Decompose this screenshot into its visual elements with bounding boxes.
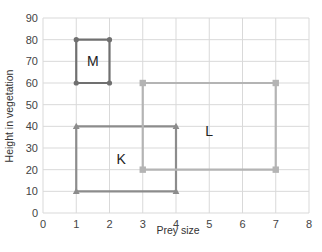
- x-tick-label: 7: [273, 218, 279, 230]
- series-line: [76, 126, 176, 191]
- y-axis-ticks: 0102030405060708090: [26, 12, 38, 219]
- region-label-k: K: [116, 151, 126, 167]
- circle-marker: [74, 80, 79, 85]
- square-marker: [273, 166, 279, 172]
- y-tick-label: 40: [26, 120, 38, 132]
- square-marker: [140, 80, 146, 86]
- region-label-m: M: [87, 53, 99, 69]
- circle-marker: [107, 37, 112, 42]
- x-axis-title: Prey size: [156, 224, 199, 236]
- y-tick-label: 20: [26, 164, 38, 176]
- y-tick-label: 70: [26, 55, 38, 67]
- y-tick-label: 50: [26, 99, 38, 111]
- region-label-l: L: [205, 123, 213, 139]
- region-labels: MKL: [87, 53, 213, 166]
- y-tick-label: 60: [26, 77, 38, 89]
- x-tick-label: 0: [40, 218, 46, 230]
- x-tick-label: 5: [206, 218, 212, 230]
- y-tick-label: 90: [26, 12, 38, 24]
- square-marker: [140, 166, 146, 172]
- circle-marker: [107, 80, 112, 85]
- y-tick-label: 10: [26, 185, 38, 197]
- y-axis-title: Height in vegetation: [3, 69, 15, 162]
- square-marker: [273, 80, 279, 86]
- y-tick-label: 0: [32, 207, 38, 219]
- circle-marker: [74, 37, 79, 42]
- x-tick-label: 6: [239, 218, 245, 230]
- x-tick-label: 1: [73, 218, 79, 230]
- x-tick-label: 2: [106, 218, 112, 230]
- y-tick-label: 30: [26, 142, 38, 154]
- x-tick-label: 8: [306, 218, 312, 230]
- series-k: [73, 123, 180, 194]
- y-tick-label: 80: [26, 34, 38, 46]
- x-tick-label: 3: [140, 218, 146, 230]
- niche-overlap-chart: 0102030405060708090 012345678 MKL Prey s…: [0, 0, 322, 252]
